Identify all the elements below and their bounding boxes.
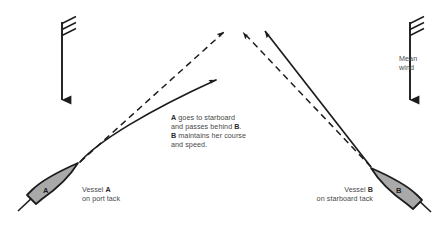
wind-arrow-left: [62, 17, 76, 101]
vessel-b-hull-letter: B: [396, 186, 401, 195]
vessel-b-maintained-course: [265, 31, 371, 167]
wind-barb-icon: [410, 23, 424, 30]
vessel-a-caption: Vessel A on port tack: [82, 185, 120, 203]
mean-wind-label: Mean wind: [399, 54, 417, 72]
mean-wind-label-line-2: wind: [399, 63, 417, 72]
note-line-1: A goes to starboard: [171, 113, 246, 122]
vessel-a-caption-line-1: Vessel A: [82, 185, 120, 194]
note-line-2-tail: .: [240, 122, 242, 131]
vessel-b-original-track: [243, 32, 371, 167]
note-line-4: and speed.: [171, 140, 246, 149]
mean-wind-label-line-1: Mean: [399, 54, 417, 63]
wind-barb-icon: [62, 29, 76, 36]
wind-barb-icon: [410, 29, 424, 36]
vessel-b-caption-line-2: on starboard tack: [293, 194, 373, 203]
vessel-a-caption-bold: A: [106, 185, 111, 194]
wind-barb-icon: [410, 17, 424, 24]
sailing-rules-diagram: A B A goes to starboard and passes behin…: [0, 0, 445, 228]
explanatory-note: A goes to starboard and passes behind B.…: [171, 113, 246, 149]
vessel-a-caption-prefix: Vessel: [82, 185, 106, 194]
note-line-1-text: goes to starboard: [176, 113, 235, 122]
note-line-2: and passes behind B.: [171, 122, 246, 131]
vessel-a-hull: [27, 163, 78, 204]
wind-barb-icon: [62, 17, 76, 24]
vessel-b-caption-bold: B: [368, 185, 373, 194]
vessel-b-caption-prefix: Vessel: [344, 185, 368, 194]
note-line-3: B maintains her course: [171, 131, 246, 140]
note-line-2-text: and passes behind: [171, 122, 234, 131]
vessel-a-caption-line-2: on port tack: [82, 194, 120, 203]
vessel-a-hull-letter: A: [43, 186, 48, 195]
vessel-b-caption-line-1: Vessel B: [293, 185, 373, 194]
note-line-4-text: and speed.: [171, 140, 207, 149]
vessel-b-caption: Vessel B on starboard tack: [293, 185, 373, 203]
wind-barb-icon: [62, 23, 76, 30]
note-line-3-text: maintains her course: [176, 131, 246, 140]
